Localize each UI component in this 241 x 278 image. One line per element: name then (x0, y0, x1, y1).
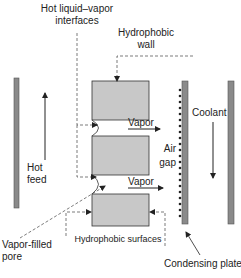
label-interfaces-1: Hot liquid–vapor (41, 3, 114, 14)
membrane-distillation-diagram: Hot liquid–vapor interfaces Hydrophobic … (0, 0, 241, 278)
coolant-channel-wall (228, 81, 234, 224)
condensing-plate (182, 81, 188, 224)
wall-leader (117, 56, 193, 81)
label-plate: Condensing plate (164, 258, 241, 269)
label-pore-2: pore (2, 251, 22, 262)
membrane-block-top (92, 81, 149, 120)
label-air: Air (164, 143, 177, 154)
plate-leader (186, 232, 200, 255)
label-pore-1: Vapor-filled (2, 239, 52, 250)
label-wall-1: Hydrophobic (118, 27, 174, 38)
membrane-block-middle (92, 136, 149, 175)
label-surfaces: Hydrophobic surfaces (74, 234, 162, 244)
condensate-droplets (179, 89, 182, 218)
label-vapor-bottom: Vapor (128, 176, 155, 187)
surfaces-leader-left (66, 212, 91, 236)
membrane-block-bottom (92, 194, 149, 226)
label-interfaces-2: interfaces (55, 15, 98, 26)
label-vapor-top: Vapor (128, 117, 155, 128)
label-coolant: Coolant (192, 107, 227, 118)
meniscus-top (92, 120, 99, 136)
label-feed: feed (27, 174, 46, 185)
label-hot: Hot (27, 162, 43, 173)
feed-channel-wall (14, 78, 19, 208)
meniscus-bottom (92, 175, 99, 194)
label-wall-2: wall (136, 39, 154, 50)
label-gap: gap (159, 157, 176, 168)
